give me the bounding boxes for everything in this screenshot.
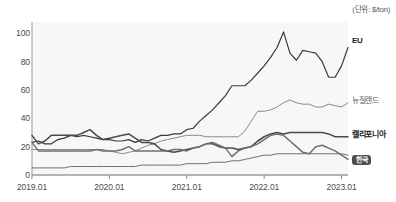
x-tick-label: 2022.01	[249, 182, 279, 192]
carbon-price-line-chart: (단위: $/ton) 020406080100 2019.012020.012…	[0, 0, 396, 202]
series-label-newzealand: 뉴질랜드	[352, 94, 379, 105]
plot-background	[32, 22, 348, 175]
x-tick-label: 2020.01	[94, 182, 124, 192]
x-tick-label: 2023.01	[327, 182, 357, 192]
series-label-california: 캘리포니아	[352, 128, 386, 139]
series-label-eu: EU	[352, 36, 363, 45]
x-axis-ticks	[32, 175, 342, 179]
plot-area	[0, 0, 396, 202]
x-tick-label: 2019.01	[17, 182, 47, 192]
series-label-korea: 한국	[352, 155, 371, 165]
x-tick-label: 2021.01	[172, 182, 202, 192]
